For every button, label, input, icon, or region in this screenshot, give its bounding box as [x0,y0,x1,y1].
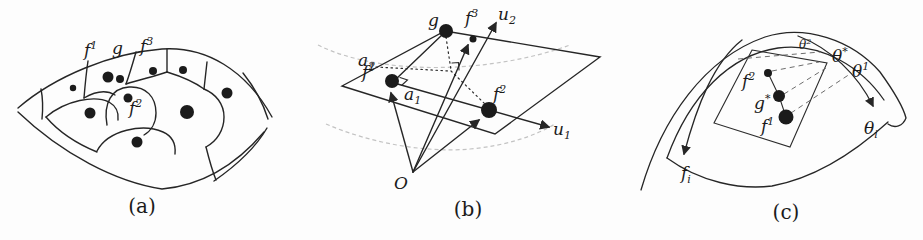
sample-dot [222,88,233,99]
dotted-a2-line [376,67,450,71]
segment-f1-g [395,34,443,80]
cell-wall [204,89,224,147]
cell-wall [167,72,204,89]
surface-fold-line [214,128,267,181]
sample-dot [132,137,143,148]
dashed-projection [784,68,826,94]
label-f2: f2 [491,83,506,104]
label-g: g [428,10,439,30]
vector-O-f2 [413,120,479,172]
label-f2: f2 [127,97,142,118]
surface-bottom-edge [18,112,264,189]
label-origin: O [394,173,408,193]
point-f2 [764,69,772,77]
panel-c: θ2 θ* θ1 f2 g* f1 θi fi (c) [641,32,906,224]
sample-dot [85,108,96,119]
faint-curve [318,45,570,68]
label-theta1: θ1 [852,60,869,81]
sample-dot [149,67,157,75]
manifold-bottom-edge [667,122,888,187]
label-g: g [112,38,123,58]
point-f1 [385,74,399,88]
label-f2: f2 [740,70,755,91]
label-theta2: θ2 [799,37,811,52]
point-f3 [470,36,477,43]
cell-wall [126,52,136,84]
label-g-star: g* [754,92,771,113]
label-a1: a1 [404,84,421,107]
surface-top-edge [18,49,272,117]
label-u1: u1 [553,119,571,142]
sample-dot [179,66,187,74]
point-g [439,24,453,38]
panel-b: g f3 u2 a2 f1 a1 f2 u1 O (b) [318,4,600,221]
cell-wall [41,89,43,119]
cell-wall [46,99,118,120]
label-f1: f1 [360,61,375,82]
dashed-projection [791,74,850,113]
u2-axis-arrow [413,23,496,172]
label-f1: f1 [82,39,97,60]
label-f3: f3 [138,35,153,56]
point-f1 [779,110,794,125]
sample-dot [70,85,76,91]
dotted-g-drop [446,37,451,70]
figure-panel-strip: f1 g f3 f2 (a) g f3 u2 a2 f1 a [0,0,923,240]
panel-a: f1 g f3 f2 (a) [18,35,272,218]
patch-outline [714,50,827,147]
surface-right-inner-line [243,73,268,119]
dotted-foot-f2 [451,71,486,105]
vector-O-g-foot [413,45,468,172]
cell-wall [126,72,167,84]
faint-curve [326,124,555,150]
label-u2: u2 [498,4,516,27]
figure-canvas: f1 g f3 f2 (a) g f3 u2 a2 f1 a [0,0,923,240]
sample-dot [116,75,124,83]
cell-wall [204,62,207,89]
label-f-i: fi [679,163,691,186]
point-gstar [773,90,785,102]
caption-c: (c) [773,200,800,224]
label-f1: f1 [759,115,774,136]
cell-wall [84,61,88,98]
caption-b: (b) [454,197,482,221]
label-theta-i: θi [864,118,878,141]
point-f2 [481,102,497,118]
fi-coordinate-curve-arrow [684,40,742,154]
dashed-projection [772,62,819,71]
cell-wall [46,117,97,152]
caption-a: (a) [128,194,156,218]
sample-dot-g [103,72,114,83]
label-f3: f3 [463,7,478,28]
sample-dot [180,105,194,119]
